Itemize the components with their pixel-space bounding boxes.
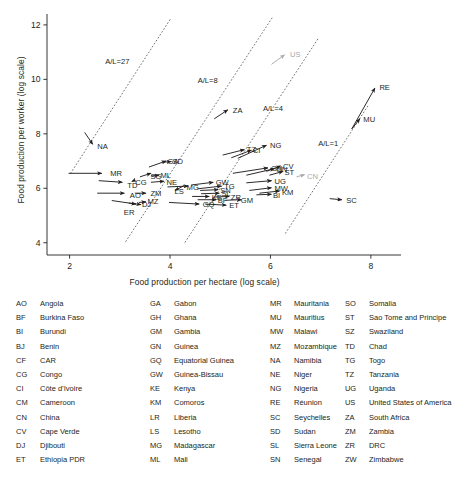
country-vector-arrow bbox=[200, 190, 218, 191]
legend-item-code: ML bbox=[150, 453, 174, 467]
legend-item-code: SL bbox=[270, 439, 294, 453]
legend-item-name: Chad bbox=[369, 340, 387, 354]
legend-item-name: Sao Tome and Principe bbox=[369, 311, 446, 325]
legend-item: CMCameroon bbox=[16, 396, 85, 410]
legend-item-code: ZW bbox=[345, 453, 369, 467]
legend-item-code: NE bbox=[270, 368, 294, 382]
country-vector-arrow bbox=[330, 199, 342, 200]
legend-item: ZMZambia bbox=[345, 425, 452, 439]
legend-item-name: Tanzania bbox=[369, 368, 399, 382]
y-axis-ticks: 4681012 bbox=[31, 20, 47, 248]
legend-item-name: Gabon bbox=[174, 297, 197, 311]
country-vector-arrow bbox=[198, 186, 222, 189]
legend-item-code: GM bbox=[150, 325, 174, 339]
country-vector-arrow bbox=[249, 188, 271, 191]
legend-item-name: Swaziland bbox=[369, 325, 403, 339]
x-tick-label: 2 bbox=[67, 261, 72, 271]
legend-item-name: Namibia bbox=[294, 354, 322, 368]
country-code-label: MU bbox=[363, 115, 375, 124]
country-code-label: GM bbox=[241, 196, 253, 205]
series-1-arrows: NAMRTDAOERDJMZCGZMSGMLGASDNELSMGGWTGSNSL… bbox=[69, 83, 390, 217]
country-vector-arrow bbox=[164, 162, 171, 163]
legend-item-name: Sudan bbox=[294, 425, 316, 439]
legend-column-2: GAGabonGHGhanaGMGambiaGNGuineaGQEquatori… bbox=[150, 297, 234, 467]
legend-item-code: MR bbox=[270, 297, 294, 311]
legend-item-code: GQ bbox=[150, 354, 174, 368]
country-vector-arrow bbox=[225, 200, 241, 201]
legend-item: RERéunion bbox=[270, 396, 337, 410]
legend-item-code: SZ bbox=[345, 325, 369, 339]
legend-item-code: MU bbox=[270, 311, 294, 325]
country-vector-arrow bbox=[169, 202, 199, 204]
country-vector-arrow bbox=[214, 110, 228, 119]
legend-item-name: Cape Verde bbox=[40, 425, 80, 439]
legend-item: UGUganda bbox=[345, 382, 452, 396]
x-tick-label: 6 bbox=[268, 261, 273, 271]
legend-item-name: Mauritius bbox=[294, 311, 324, 325]
iso-line-labels: A/L=27A/L=8A/L=4A/L=1 bbox=[105, 57, 338, 148]
country-code-label: BI bbox=[273, 191, 280, 200]
legend-item-code: BI bbox=[16, 325, 40, 339]
country-code-label: KM bbox=[282, 188, 293, 197]
country-code-label: SD bbox=[173, 157, 184, 166]
country-vector-arrow bbox=[246, 181, 271, 183]
legend-item-name: Benin bbox=[40, 340, 59, 354]
legend-item-name: Comoros bbox=[174, 396, 204, 410]
country-code-label: ET bbox=[229, 201, 239, 210]
legend-item-name: Kenya bbox=[174, 382, 195, 396]
legend-item: NGNigeria bbox=[270, 382, 337, 396]
iso-line-label: A/L=8 bbox=[198, 76, 218, 85]
country-code-label: AO bbox=[130, 191, 141, 200]
chart-area: 46810122468NAMRTDAOERDJMZCGZMSGMLGASDNEL… bbox=[0, 0, 409, 292]
country-code-label: SC bbox=[346, 196, 357, 205]
legend-item: SNSenegal bbox=[270, 453, 337, 467]
legend-item: MWMalawi bbox=[270, 325, 337, 339]
legend-item-code: BF bbox=[16, 311, 40, 325]
country-code-legend: AOAngolaBFBurkina FasoBIBurundiBJBeninCF… bbox=[0, 297, 409, 479]
legend-item: STSao Tome and Principe bbox=[345, 311, 452, 325]
legend-item: TGTogo bbox=[345, 354, 452, 368]
legend-item-name: China bbox=[40, 411, 60, 425]
legend-item: NANamibia bbox=[270, 354, 337, 368]
y-axis-title: Food production per worker (log scale) bbox=[16, 55, 26, 205]
legend-item-code: AO bbox=[16, 297, 40, 311]
country-code-label: RE bbox=[379, 83, 390, 92]
legend-item-name: Somalia bbox=[369, 297, 396, 311]
country-vector-arrow bbox=[140, 173, 151, 177]
legend-item-name: Togo bbox=[369, 354, 385, 368]
country-code-label: NE bbox=[167, 178, 178, 187]
axes bbox=[47, 14, 401, 255]
legend-item: SCSeychelles bbox=[270, 411, 337, 425]
legend-item-name: Zambia bbox=[369, 425, 394, 439]
country-code-label: ZA bbox=[233, 106, 244, 115]
legend-item: MLMali bbox=[150, 453, 234, 467]
legend-item: GMGambia bbox=[150, 325, 234, 339]
legend-item-name: Madagascar bbox=[174, 439, 215, 453]
legend-item-code: MW bbox=[270, 325, 294, 339]
legend-item-name: Ethiopia PDR bbox=[40, 453, 85, 467]
country-vector-arrow bbox=[151, 181, 164, 182]
legend-item-name: Seychelles bbox=[294, 411, 330, 425]
legend-item-name: Angola bbox=[40, 297, 63, 311]
legend-item-name: Côte d’Ivoire bbox=[40, 382, 82, 396]
legend-item: DJDjibouti bbox=[16, 439, 85, 453]
legend-item-code: LR bbox=[150, 411, 174, 425]
country-code-label: ST bbox=[285, 168, 295, 177]
y-tick-label: 8 bbox=[36, 129, 41, 139]
legend-item: GNGuinea bbox=[150, 340, 234, 354]
legend-item-code: ST bbox=[345, 311, 369, 325]
legend-item-name: Mozambique bbox=[294, 340, 337, 354]
legend-item: MRMauritania bbox=[270, 297, 337, 311]
legend-item-code: DJ bbox=[16, 439, 40, 453]
country-vector-arrow bbox=[149, 161, 166, 167]
legend-item-code: GN bbox=[150, 340, 174, 354]
legend-column-3: MRMauritaniaMUMauritiusMWMalawiMZMozambi… bbox=[270, 297, 337, 467]
legend-item: GQEquatorial Guinea bbox=[150, 354, 234, 368]
legend-item-code: CN bbox=[16, 411, 40, 425]
legend-item-name: Malawi bbox=[294, 325, 317, 339]
y-tick-label: 4 bbox=[36, 238, 41, 248]
legend-item-code: NG bbox=[270, 382, 294, 396]
legend-item: SZSwaziland bbox=[345, 325, 452, 339]
legend-item: SLSierra Leone bbox=[270, 439, 337, 453]
